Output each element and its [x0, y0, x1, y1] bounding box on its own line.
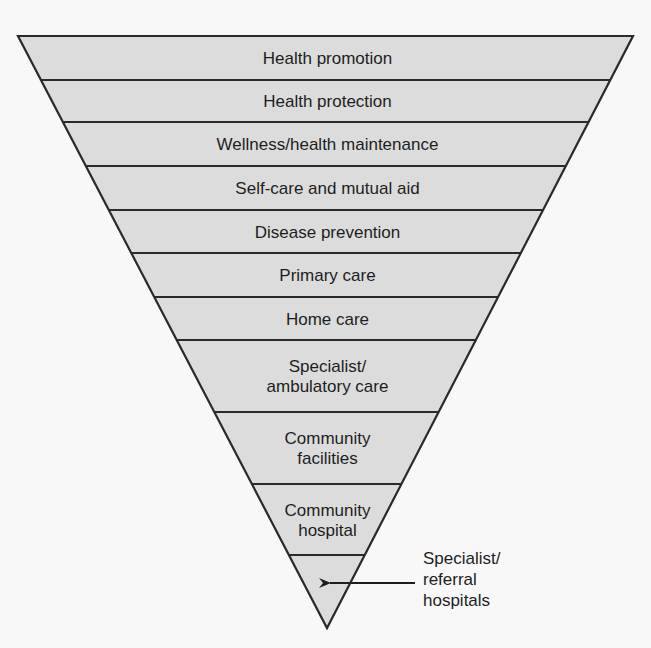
pyramid-level-label: Primary care: [279, 266, 375, 286]
pyramid-level-label: Health protection: [263, 92, 392, 112]
pyramid-level-label: Home care: [286, 310, 369, 330]
pyramid-level-label: Health promotion: [263, 49, 392, 69]
pyramid-level-label: Specialist/ ambulatory care: [267, 357, 389, 397]
pyramid-level-label: Disease prevention: [255, 223, 401, 243]
pyramid-level-label: Community facilities: [285, 429, 371, 469]
callout-label-specialist-referral-hospitals: Specialist/ referral hospitals: [423, 548, 500, 611]
pyramid-level-label: Wellness/health maintenance: [217, 135, 439, 155]
pyramid-level-label: Community hospital: [285, 501, 371, 541]
pyramid-level-label: Self-care and mutual aid: [235, 179, 419, 199]
